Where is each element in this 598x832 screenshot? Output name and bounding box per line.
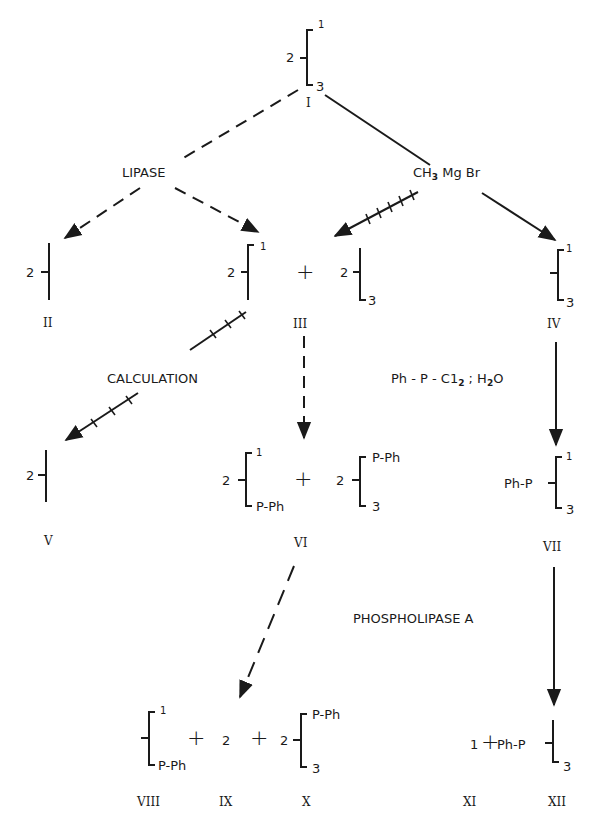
plus-operator: +	[187, 727, 205, 749]
compound-VIII-pos1: 1	[160, 706, 166, 716]
plus-operator: +	[294, 468, 312, 490]
arrow-grignard-to-III	[335, 192, 418, 236]
compound-X-label: X	[302, 796, 311, 808]
arrow-I-to-lipase	[180, 90, 298, 160]
compound-VII-label: VII	[543, 541, 561, 553]
compound-VII-bracket	[556, 457, 562, 508]
arrow-VI-to-products	[240, 566, 294, 697]
compound-II-pos2: 2	[26, 266, 34, 279]
compound-VI-a-bracket	[246, 453, 252, 506]
plus-operator: +	[296, 261, 314, 283]
compound-VI-b-pos3: 3	[372, 500, 380, 513]
compound-III-label: III	[293, 318, 307, 330]
compound-XII-prefix: Ph-P	[497, 738, 526, 751]
arrow-grignard-to-IV	[482, 193, 555, 240]
compound-XII-bracket	[553, 720, 559, 762]
compound-X-pos3: 3	[312, 762, 320, 775]
compound-VII-pos1: 1	[566, 452, 572, 462]
compound-I-pos3: 3	[316, 80, 324, 93]
compound-V-pos2: 2	[26, 469, 34, 482]
compound-XII-label: XII	[548, 796, 566, 808]
compound-X-substituent: P-Ph	[312, 708, 340, 721]
arrow-I-to-grignard	[325, 95, 430, 165]
reagent-grignard: CH3 Mg Br	[413, 166, 480, 182]
compound-VIII-label: VIII	[137, 796, 160, 808]
compound-I-bracket	[307, 30, 313, 85]
compound-IV-pos1: 1	[566, 244, 572, 254]
plus-operator: +	[250, 727, 268, 749]
reagent-phosphorylation: Ph - P - C12 ; H2O	[391, 372, 503, 388]
compound-VII-pos3: 3	[566, 503, 574, 516]
compound-VI-a-substituent: P-Ph	[256, 500, 284, 513]
phos-text-a: Ph - P - C1	[391, 371, 458, 386]
compound-III-b-pos3: 3	[368, 294, 376, 307]
compound-III-b-bracket	[360, 248, 366, 300]
compound-VI-b-substituent: P-Ph	[372, 451, 400, 464]
compound-IV-bracket	[558, 250, 564, 300]
reagent-lipase: LIPASE	[122, 166, 165, 179]
compound-IX-value: 2	[222, 734, 230, 747]
compound-II-label: II	[43, 317, 52, 329]
hatch-III-to-calculation	[190, 312, 246, 350]
compound-IV-pos3: 3	[566, 296, 574, 309]
compound-I-pos2: 2	[286, 51, 294, 64]
compound-VIII-substituent: P-Ph	[158, 759, 186, 772]
compound-XI-value: 1	[470, 738, 478, 751]
compound-III-a-pos1: 1	[260, 242, 266, 252]
grignard-rest: Mg Br	[438, 165, 480, 180]
reagent-calculation: CALCULATION	[107, 372, 198, 385]
arrow-lipase-to-II	[65, 188, 140, 238]
compound-IV-label: IV	[547, 318, 560, 330]
compound-III-b-pos2: 2	[340, 266, 348, 279]
grignard-text: CH	[413, 165, 432, 180]
arrow-calculation-to-V	[66, 393, 138, 440]
arrow-lipase-to-III	[175, 188, 258, 232]
compound-X-pos2: 2	[280, 734, 288, 747]
compound-VI-b-bracket	[360, 457, 366, 506]
compound-V-label: V	[44, 535, 53, 547]
compound-III-a-pos2: 2	[227, 266, 235, 279]
compound-VI-label: VI	[294, 537, 307, 549]
reagent-phospholipase: PHOSPHOLIPASE A	[353, 612, 473, 625]
compound-X-bracket	[301, 714, 307, 767]
compound-VIII-bracket	[149, 712, 155, 765]
phos-text-c: O	[493, 371, 503, 386]
compound-VII-prefix: Ph-P	[504, 477, 533, 490]
compound-III-a-bracket	[248, 245, 254, 300]
reaction-scheme-lines	[0, 0, 598, 832]
compound-VI-b-pos2: 2	[336, 474, 344, 487]
compound-VI-a-pos2: 2	[222, 474, 230, 487]
compound-XI-label: XI	[463, 796, 476, 808]
compound-XII-pos3: 3	[563, 760, 571, 773]
compound-VI-a-pos1: 1	[256, 448, 262, 458]
compound-IX-label: IX	[219, 796, 232, 808]
compound-I-pos1: 1	[318, 20, 324, 30]
compound-I-label: I	[306, 97, 311, 109]
phos-text-b: ; H	[464, 371, 486, 386]
